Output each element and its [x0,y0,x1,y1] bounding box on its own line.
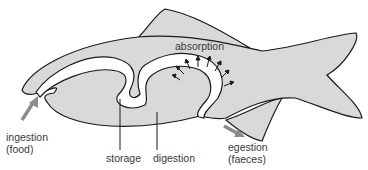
ingestion-arrow [22,96,38,120]
egestion-faeces-label: (faeces) [228,153,266,165]
egestion-label: egestion [228,141,268,153]
storage-label: storage [106,152,141,164]
absorption-label: absorption [175,40,224,52]
ingestion-label: ingestion [6,131,48,143]
digestion-label: digestion [153,152,195,164]
ingestion-food-label: (food) [6,143,33,155]
fish-diagram [0,0,368,170]
